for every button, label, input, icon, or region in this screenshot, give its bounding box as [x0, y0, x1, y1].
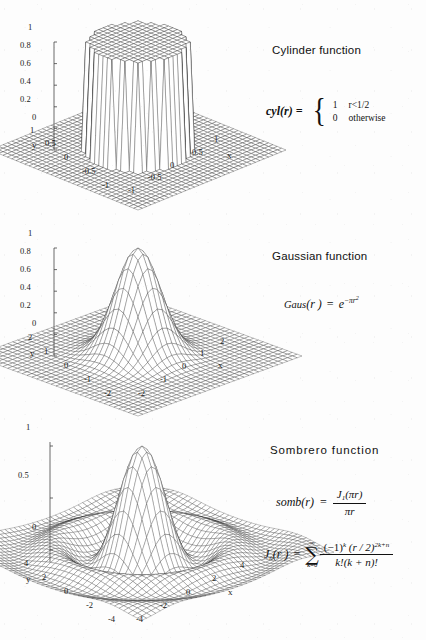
exponent-power: 2 [356, 294, 359, 300]
bessel-equals: = [294, 547, 301, 562]
sombrero-title: Sombrero function [270, 444, 379, 456]
info-sombrero: Sombrero function somb(r) = J1(πr) πr Jn… [258, 410, 426, 640]
bessel-num-tail-exponent: 2k+n [374, 541, 389, 549]
gaussian-fname: Gaus [284, 299, 306, 310]
plot-cylinder: 10.80.60.40.2010.50-0.5-1-1-0.500.51yx [10, 0, 266, 210]
bessel-fraction: (−1)k (r / 2)2k+n k!(k + n)! [320, 541, 393, 568]
panel-cylinder: 10.80.60.40.2010.50-0.5-1-1-0.500.51yx C… [0, 0, 426, 210]
panel-sombrero: 10.50420-2-4-4-2024yx Sombrero function … [0, 410, 426, 640]
cases-brace-icon: { [312, 93, 325, 127]
case-1-value: 1 [333, 100, 338, 110]
sombrero-fraction: J1(πr) πr [333, 488, 367, 517]
case-2-value: 0 [333, 113, 338, 123]
sum-lower-limit: k=0 [307, 562, 317, 569]
case-1-condition: r<1/2 [349, 100, 386, 110]
figure-page: 10.80.60.40.2010.50-0.5-1-1-0.500.51yx C… [0, 0, 426, 640]
cylinder-title: Cylinder function [272, 44, 361, 56]
cylinder-formula: cyl(r) = { 1 r<1/2 0 otherwise [266, 94, 386, 128]
cylinder-formula-lhs: cyl(r) = [266, 104, 303, 119]
surface-plot-gaussian [10, 208, 266, 413]
cylinder-cases: 1 r<1/2 0 otherwise [333, 100, 386, 123]
gaussian-arg: (r ) [306, 297, 322, 311]
plot-sombrero: 10.50420-2-4-4-2024yx [10, 410, 266, 640]
bessel-num-sign: (−1) [324, 541, 343, 553]
bessel-numerator: (−1)k (r / 2)2k+n [320, 541, 393, 554]
gaussian-equals: = [327, 297, 334, 311]
surface-plot-cylinder [10, 0, 266, 210]
gaussian-exponent: −πr2 [344, 296, 359, 305]
summation-operator: ∞ ∑ k=0 [305, 540, 319, 568]
gaussian-formula: Gaus(r )=e−πr2 [284, 294, 359, 312]
bessel-lhs-arg: (r ) [273, 547, 289, 561]
bessel-num-tail: (r / 2) [346, 541, 374, 553]
info-cylinder: Cylinder function cyl(r) = { 1 r<1/2 0 o… [258, 0, 426, 210]
sombrero-formula: somb(r) = J1(πr) πr [276, 488, 366, 517]
sigma-icon: ∑ [305, 546, 319, 562]
info-gaussian: Gaussian function Gaus(r )=e−πr2 [258, 208, 426, 413]
case-2-condition: otherwise [349, 113, 386, 123]
gaussian-title: Gaussian function [272, 250, 367, 262]
bessel-denominator: k!(k + n)! [331, 555, 382, 568]
sombrero-numerator-arg: (πr) [345, 488, 362, 500]
sombrero-equals: = [320, 495, 327, 510]
panel-gaussian: 10.80.60.40.20210-1-2-2-1012yx Gaussian … [0, 208, 426, 413]
sombrero-lhs: somb(r) [276, 495, 314, 510]
surface-plot-sombrero [10, 410, 266, 640]
sombrero-numerator: J1(πr) [333, 488, 367, 503]
bessel-series-formula: Jn(r ) = ∞ ∑ k=0 (−1)k (r / 2)2k+n k!(k … [264, 540, 393, 568]
plot-gaussian: 10.80.60.40.20210-1-2-2-1012yx [10, 208, 266, 413]
sombrero-denominator: πr [341, 504, 359, 517]
bessel-lhs: Jn(r ) [264, 547, 289, 562]
